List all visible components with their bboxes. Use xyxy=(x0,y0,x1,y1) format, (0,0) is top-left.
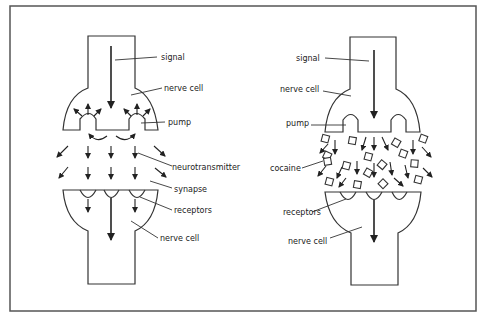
label-signal: signal xyxy=(161,53,185,62)
receptor-shape xyxy=(129,190,145,198)
cocaine-icon xyxy=(348,137,356,145)
reuptake-arrow-icon xyxy=(116,134,135,140)
label-nerve-cell: nerve cell xyxy=(288,237,327,246)
neurotransmitter-arrow-icon xyxy=(57,146,68,157)
label-receptors: receptors xyxy=(174,206,212,215)
receptor-shape xyxy=(104,190,119,198)
neurotransmitter-arrow-icon xyxy=(318,166,326,176)
label-nerve-cell: nerve cell xyxy=(164,84,203,93)
neurotransmitter-arrow-icon xyxy=(382,137,388,150)
neurotransmitter-arrow-icon xyxy=(59,167,68,178)
lower-nerve-cell-shape xyxy=(325,192,421,285)
cocaine-icon xyxy=(419,134,428,143)
neurotransmitter-arrow-icon xyxy=(394,178,403,186)
cocaine-icon xyxy=(414,175,423,184)
cocaine-icon xyxy=(321,134,330,143)
pump-arrow-icon xyxy=(74,109,82,116)
cocaine-icon xyxy=(325,177,334,186)
neurotransmitter-arrow-icon xyxy=(154,146,165,156)
receptor-shape xyxy=(366,192,382,200)
label-receptors: receptors xyxy=(283,208,321,217)
receptor-shape xyxy=(80,190,96,198)
receptor-shape xyxy=(340,192,356,200)
neurotransmitter-arrow-icon xyxy=(423,168,432,177)
figure-frame xyxy=(10,6,476,311)
reuptake-arrow-icon xyxy=(89,134,107,140)
left-panel-normal-synapse: signal nerve cell pump neurotransmitter … xyxy=(57,36,241,284)
cocaine-icon xyxy=(411,160,419,168)
label-pump: pump xyxy=(168,118,191,127)
cocaine-icon xyxy=(353,181,361,189)
cocaine-icon xyxy=(399,149,408,158)
synapse-diagram: signal nerve cell pump neurotransmitter … xyxy=(0,0,489,314)
neurotransmitter-arrow-icon xyxy=(337,167,342,178)
label-cocaine: cocaine xyxy=(270,164,301,173)
neurotransmitter-arrow-icon xyxy=(390,162,392,175)
receptor-shape xyxy=(392,192,407,200)
neurotransmitter-arrow-icon xyxy=(339,178,346,187)
right-panel-cocaine-synapse: signal nerve cell pump cocaine receptors… xyxy=(270,37,432,285)
cocaine-icon xyxy=(391,138,401,148)
cocaine-icon xyxy=(342,161,351,170)
neurotransmitter-arrow-icon xyxy=(405,165,408,178)
cocaine-icon xyxy=(364,152,373,161)
neurotransmitter-arrow-icon xyxy=(362,137,366,150)
label-signal: signal xyxy=(296,54,320,63)
cocaine-icon xyxy=(378,179,388,189)
label-nerve-cell: nerve cell xyxy=(160,234,199,243)
cocaine-icon xyxy=(363,168,373,178)
label-pump: pump xyxy=(286,119,309,128)
neurotransmitter-arrow-icon xyxy=(155,168,166,177)
upper-nerve-cell-shape xyxy=(325,37,420,132)
pump-arrow-icon xyxy=(94,109,101,116)
label-synapse: synapse xyxy=(174,185,207,194)
cocaine-icon xyxy=(324,157,332,165)
neurotransmitter-arrow-icon xyxy=(422,147,431,157)
cocaine-icon xyxy=(377,160,387,170)
label-nerve-cell: nerve cell xyxy=(280,85,319,94)
pump-arrow-icon xyxy=(124,109,131,116)
label-neurotransmitter: neurotransmitter xyxy=(172,163,241,172)
pump-arrow-icon xyxy=(143,109,150,116)
